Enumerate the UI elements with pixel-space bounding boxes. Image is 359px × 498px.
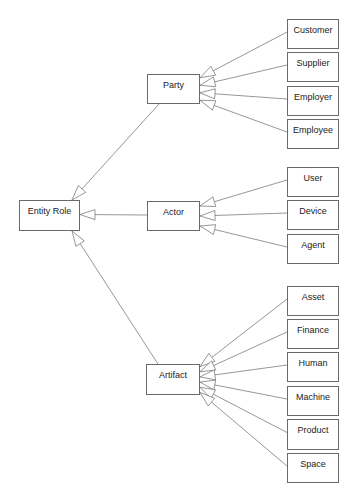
- class-box-product: Product: [287, 419, 339, 450]
- hollow-triangle-arrowhead-icon: [200, 100, 216, 110]
- class-label: Employee: [293, 125, 333, 135]
- generalization-line: [215, 213, 287, 215]
- generalization-line: [82, 104, 159, 189]
- class-box-device: Device: [287, 200, 339, 230]
- class-box-customer: Customer: [287, 19, 339, 49]
- class-label: Device: [299, 206, 327, 216]
- generalization-line: [211, 402, 287, 466]
- class-label: Space: [300, 459, 326, 469]
- generalization-line: [214, 180, 287, 202]
- class-label: Asset: [302, 292, 325, 302]
- hollow-triangle-arrowhead-icon: [72, 231, 84, 246]
- class-label: Actor: [163, 207, 184, 217]
- class-label: Machine: [296, 392, 330, 402]
- hollow-triangle-arrowhead-icon: [72, 186, 86, 200]
- generalization-line: [214, 332, 287, 366]
- generalization-line: [213, 32, 287, 71]
- class-box-space: Space: [287, 453, 339, 483]
- generalization-line: [215, 230, 287, 247]
- class-box-finance: Finance: [287, 319, 339, 349]
- class-box-machine: Machine: [287, 386, 339, 416]
- class-label: Entity Role: [28, 206, 72, 216]
- class-label: User: [303, 173, 322, 183]
- hollow-triangle-arrowhead-icon: [200, 210, 215, 220]
- generalization-line: [215, 385, 287, 399]
- generalization-line: [215, 65, 287, 82]
- class-label: Human: [298, 358, 327, 368]
- generalization-line: [212, 299, 287, 357]
- class-label: Employer: [294, 92, 332, 102]
- generalization-line: [214, 105, 287, 132]
- hollow-triangle-arrowhead-icon: [200, 77, 216, 87]
- class-box-employee: Employee: [287, 119, 339, 149]
- class-box-actor: Actor: [147, 201, 200, 231]
- class-box-party: Party: [147, 74, 200, 104]
- class-box-user: User: [287, 167, 339, 197]
- class-label: Artifact: [159, 370, 187, 380]
- hollow-triangle-arrowhead-icon: [80, 210, 95, 220]
- class-label: Finance: [297, 325, 329, 335]
- generalization-line: [215, 94, 287, 99]
- class-box-supplier: Supplier: [287, 52, 339, 82]
- hollow-triangle-arrowhead-icon: [200, 225, 216, 235]
- generalization-line: [215, 365, 287, 375]
- generalization-line: [80, 244, 158, 364]
- hollow-triangle-arrowhead-icon: [200, 197, 216, 207]
- class-box-employer: Employer: [287, 86, 339, 116]
- class-label: Agent: [301, 240, 325, 250]
- class-label: Party: [163, 80, 184, 90]
- hollow-triangle-arrowhead-icon: [200, 89, 215, 99]
- class-box-artifact: Artifact: [146, 364, 200, 395]
- class-box-human: Human: [287, 352, 339, 382]
- class-box-entity-role: Entity Role: [19, 200, 80, 231]
- hollow-triangle-arrowhead-icon: [200, 66, 216, 77]
- class-box-agent: Agent: [287, 234, 339, 264]
- class-label: Customer: [293, 25, 332, 35]
- class-label: Supplier: [296, 58, 329, 68]
- class-label: Product: [297, 425, 328, 435]
- class-box-asset: Asset: [287, 286, 339, 316]
